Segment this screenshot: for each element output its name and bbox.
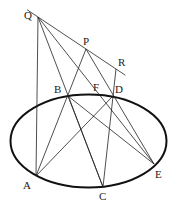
segment-ad	[36, 97, 112, 176]
point-label-f: F	[93, 81, 99, 93]
point-label-e: E	[155, 168, 162, 180]
ellipse-conic	[11, 95, 167, 188]
point-label-q: Q	[24, 9, 32, 21]
point-label-a: A	[23, 179, 31, 191]
point-label-c: C	[99, 190, 106, 202]
point-label-p: P	[83, 35, 89, 47]
segment-pa	[36, 49, 86, 176]
point-label-d: D	[115, 83, 123, 95]
segment-qa	[36, 17, 38, 176]
labels-group: Q P R B F D A C E	[23, 9, 162, 202]
segments-group	[27, 10, 154, 187]
point-label-b: B	[54, 83, 61, 95]
diagram-canvas: Q P R B F D A C E	[0, 0, 175, 204]
point-label-r: R	[118, 56, 126, 68]
